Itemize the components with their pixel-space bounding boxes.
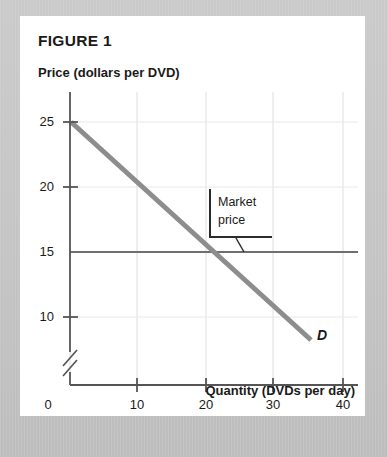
market-price-label: Market price [218, 193, 256, 229]
y-tick-label-10: 10 [28, 309, 54, 324]
demand-curve-label: D [317, 327, 327, 343]
chart-svg [20, 16, 365, 416]
x-axis-title: Quantity (DVDs per day) [205, 383, 355, 398]
x-tick-label-40: 40 [330, 397, 356, 412]
x-tick-label-20: 20 [193, 397, 219, 412]
x-tick-label-30: 30 [260, 397, 286, 412]
y-tick-label-20: 20 [28, 179, 54, 194]
chart-plot-area: 25 20 15 10 0 10 20 30 40 Market price D [20, 16, 365, 416]
market-price-callout-pointer [236, 238, 244, 252]
market-price-callout-box: Market price [209, 189, 272, 238]
x-tick-label-10: 10 [124, 397, 150, 412]
vertical-gridlines [70, 92, 343, 384]
y-tick-label-25: 25 [28, 114, 54, 129]
x-tick-label-0: 0 [35, 397, 61, 412]
figure-card: FIGURE 1 Price (dollars per DVD) [20, 16, 365, 416]
demand-curve [71, 122, 311, 340]
y-tick-label-15: 15 [28, 244, 54, 259]
